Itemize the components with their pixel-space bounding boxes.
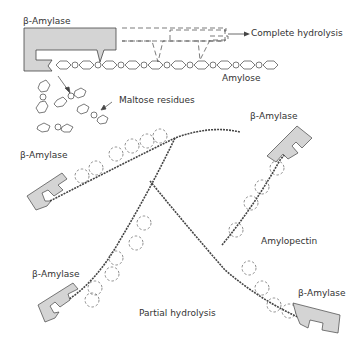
- enzyme-bottom-right: [293, 303, 340, 333]
- diagram-canvas: [0, 0, 358, 351]
- enzyme-left: [27, 173, 67, 210]
- maltose-residues: [36, 80, 108, 132]
- label-enzyme-left: β-Amylase: [20, 151, 67, 160]
- label-enzyme-top: β-Amylase: [23, 17, 70, 26]
- enzyme-bottom-left: [38, 283, 78, 322]
- label-partial-hydrolysis: Partial hydrolysis: [139, 309, 216, 318]
- arrow-complete-hydrolysis: [228, 32, 250, 37]
- label-enzyme-right-top: β-Amylase: [250, 112, 297, 121]
- amylopectin-chains: [50, 130, 300, 318]
- amylose-chain: [56, 61, 278, 69]
- label-amylose: Amylose: [222, 74, 260, 83]
- dashed-enzyme-outlines: [122, 28, 228, 62]
- label-enzyme-bottom-left: β-Amylase: [32, 270, 79, 279]
- label-maltose-residues: Maltose residues: [119, 96, 195, 105]
- label-complete-hydrolysis: Complete hydrolysis: [251, 29, 343, 38]
- label-amylopectin: Amylopectin: [261, 237, 317, 246]
- label-enzyme-bottom-right: β-Amylase: [298, 289, 345, 298]
- enzyme-right-top: [267, 126, 312, 162]
